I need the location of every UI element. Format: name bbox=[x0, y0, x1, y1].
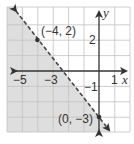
point-0-neg3 bbox=[97, 115, 102, 120]
point-label-b: (0, −3) bbox=[58, 112, 93, 126]
tick-label-neg3: −3 bbox=[44, 73, 58, 87]
y-axis-label: y bbox=[101, 5, 109, 20]
inequality-graph: (−4, 2) (0, −3) −5 −3 1 x 2 −1 y bbox=[0, 0, 134, 144]
tick-label-2: 2 bbox=[89, 33, 96, 47]
x-axis-label: x bbox=[121, 72, 128, 87]
tick-label-neg1: −1 bbox=[84, 80, 98, 94]
tick-label-1: 1 bbox=[111, 73, 118, 87]
tick-label-neg5: −5 bbox=[13, 73, 27, 87]
point-neg4-2 bbox=[35, 38, 40, 43]
point-label-a: (−4, 2) bbox=[41, 24, 76, 38]
